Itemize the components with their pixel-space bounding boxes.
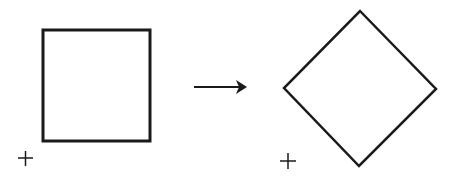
origin-marker-left — [18, 151, 33, 166]
arrow-icon — [194, 80, 247, 94]
original-square — [43, 30, 150, 141]
rotated-square — [284, 11, 436, 166]
transformation-diagram — [0, 0, 458, 179]
origin-marker-right — [280, 153, 296, 169]
